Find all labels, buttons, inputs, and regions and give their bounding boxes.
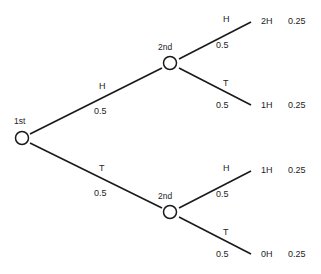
edge-upper-2nd-to-outcome-1 (179, 22, 251, 59)
outcome-label-4: 0H (261, 249, 273, 259)
edge-root-to-lower-2nd (30, 143, 162, 208)
branch-symbol-first-h: H (99, 81, 106, 91)
outcome-probability-1: 0.25 (288, 16, 306, 26)
probability-tree-diagram: 1st 2nd 2nd H 0.5 T 0.5 H 0.5 T 0.5 H 0.… (0, 0, 321, 274)
branch-symbol-lower-t: T (223, 227, 229, 237)
edge-upper-2nd-to-outcome-2 (179, 68, 251, 105)
node-label-root: 1st (14, 116, 25, 126)
edge-lower-2nd-to-outcome-4 (179, 217, 251, 254)
branch-probability-first-h: 0.5 (94, 106, 107, 116)
outcome-probability-2: 0.25 (288, 100, 306, 110)
node-lower-2nd (164, 206, 177, 219)
outcome-probability-4: 0.25 (288, 249, 306, 259)
branch-probability-lower-h: 0.5 (216, 189, 229, 199)
node-label-upper-2nd: 2nd (158, 42, 172, 52)
node-root-1st (16, 132, 29, 145)
branch-symbol-lower-h: H (223, 163, 230, 173)
outcome-probability-3: 0.25 (288, 165, 306, 175)
branch-probability-upper-h: 0.5 (216, 40, 229, 50)
edge-lower-2nd-to-outcome-3 (179, 171, 251, 208)
edge-root-to-upper-2nd (30, 68, 162, 134)
outcome-label-2: 1H (261, 100, 273, 110)
branch-probability-upper-t: 0.5 (216, 100, 229, 110)
node-label-lower-2nd: 2nd (158, 191, 172, 201)
node-upper-2nd (164, 57, 177, 70)
outcome-label-1: 2H (261, 16, 273, 26)
branch-symbol-upper-t: T (223, 78, 229, 88)
outcome-label-3: 1H (261, 165, 273, 175)
branch-symbol-first-t: T (99, 163, 105, 173)
branch-symbol-upper-h: H (223, 14, 230, 24)
branch-probability-lower-t: 0.5 (216, 249, 229, 259)
branch-probability-first-t: 0.5 (94, 188, 107, 198)
